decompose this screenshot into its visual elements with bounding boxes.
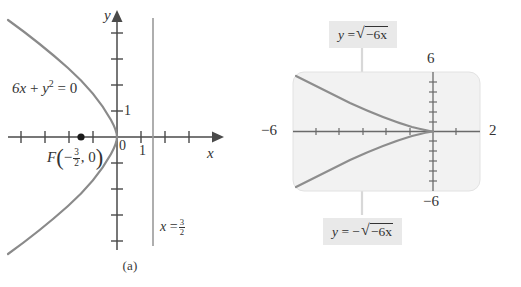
window-xmax-label: 2	[489, 123, 497, 138]
figure-container: 6x + y2 = 0 F(−32, 0) x =32 x y 0 1 1 (a…	[0, 0, 521, 287]
window-ymax-label: 6	[427, 51, 435, 66]
equation-exponent: 2	[49, 78, 54, 89]
equation-plus: +	[30, 80, 38, 96]
equation-coef: 6	[12, 80, 20, 96]
focus-open-paren: (	[56, 145, 64, 170]
bottom-eq-radical: √−6x	[361, 223, 393, 239]
focus-minus: −	[64, 149, 72, 165]
focus-second-coord: , 0	[81, 149, 96, 165]
focus-close-paren: )	[96, 145, 104, 170]
focus-fraction: 32	[73, 148, 80, 168]
radical-icon: √	[361, 222, 370, 238]
directrix-x: x	[160, 219, 166, 234]
window-ymin-label: −6	[423, 194, 439, 209]
bottom-equation-box: y = −√−6x	[323, 218, 402, 245]
equation-x: x	[20, 80, 27, 96]
caption-a: (a)	[0, 258, 260, 274]
x-tick-label-1: 1	[139, 144, 146, 158]
bottom-eq-equals: = −	[341, 224, 360, 239]
directrix-equals: =	[170, 219, 178, 234]
panel-b: −6 2 6 −6 y =√−6x y = −√−6x (b)	[260, 0, 521, 287]
radical-icon: √	[356, 25, 365, 41]
x-axis-label: x	[207, 146, 214, 161]
panel-a: 6x + y2 = 0 F(−32, 0) x =32 x y 0 1 1 (a…	[0, 0, 260, 287]
bottom-eq-radicand: −6x	[370, 223, 393, 239]
top-eq-equals: =	[347, 27, 355, 42]
focus-denominator: 2	[73, 158, 80, 169]
top-eq-radicand: −6x	[365, 26, 388, 42]
focus-letter: F	[47, 149, 56, 165]
equation-rhs: = 0	[58, 80, 78, 96]
y-axis	[112, 10, 123, 250]
panel-a-graph	[0, 0, 260, 260]
top-eq-y: y	[338, 27, 344, 42]
top-equation-box: y =√−6x	[329, 21, 397, 48]
top-eq-radical: √−6x	[356, 26, 388, 42]
bottom-eq-y: y	[332, 224, 338, 239]
directrix-denominator: 2	[179, 227, 185, 237]
directrix-numerator: 3	[179, 218, 185, 227]
y-axis-label: y	[104, 8, 111, 23]
y-tick-label-1: 1	[124, 104, 131, 118]
focus-numerator: 3	[73, 148, 80, 158]
focus-label: F(−32, 0)	[47, 148, 103, 168]
equation-y: y	[42, 80, 49, 96]
equation-label: 6x + y2 = 0	[12, 79, 77, 96]
focus-point	[77, 133, 84, 140]
window-xmin-label: −6	[261, 123, 277, 138]
directrix-label: x =32	[160, 218, 186, 237]
directrix-fraction: 32	[179, 218, 185, 237]
origin-label: 0	[119, 139, 126, 153]
